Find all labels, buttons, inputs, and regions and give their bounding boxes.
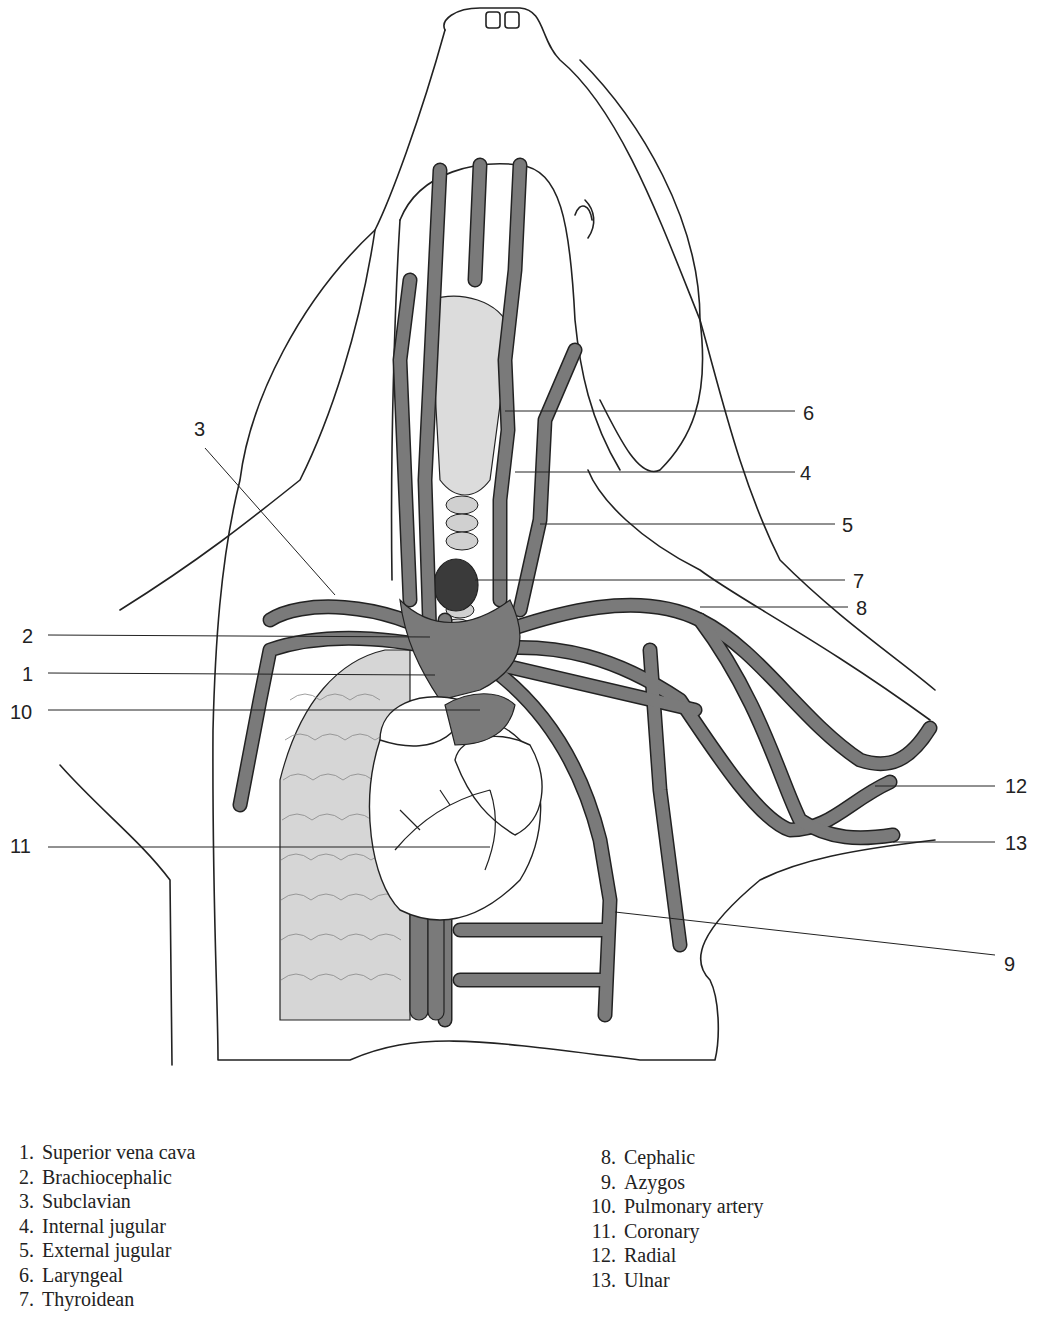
legend-item: 8.Cephalic [578, 1145, 763, 1170]
legend-item: 1.Superior vena cava [10, 1140, 195, 1165]
callout-4: 4 [800, 463, 811, 483]
legend-item: 12.Radial [578, 1243, 763, 1268]
legend-item: 3.Subclavian [10, 1189, 195, 1214]
callout-8: 8 [856, 598, 867, 618]
callout-1: 1 [22, 664, 33, 684]
legend-item: 7.Thyroidean [10, 1287, 195, 1312]
callout-5: 5 [842, 515, 853, 535]
callout-6: 6 [803, 403, 814, 423]
legend-item: 13.Ulnar [578, 1268, 763, 1293]
callout-9: 9 [1004, 954, 1015, 974]
legend-item: 4.Internal jugular [10, 1214, 195, 1239]
legend-item: 10.Pulmonary artery [578, 1194, 763, 1219]
legend-item: 5.External jugular [10, 1238, 195, 1263]
callout-13: 13 [1005, 833, 1027, 853]
thyroid [434, 559, 478, 611]
callout-12: 12 [1005, 776, 1027, 796]
legend-left: 1.Superior vena cava 2.Brachiocephalic 3… [10, 1140, 195, 1312]
legend-right: 8.Cephalic 9.Azygos 10.Pulmonary artery … [578, 1145, 763, 1292]
legend-item: 6.Laryngeal [10, 1263, 195, 1288]
callout-11: 11 [10, 836, 31, 856]
anatomy-illustration [0, 0, 1041, 1110]
legend-item: 11.Coronary [578, 1219, 763, 1244]
legend-item: 9.Azygos [578, 1170, 763, 1195]
callout-10: 10 [10, 702, 32, 722]
callout-2: 2 [22, 626, 33, 646]
legend-item: 2.Brachiocephalic [10, 1165, 195, 1190]
callout-3: 3 [194, 419, 205, 439]
callout-7: 7 [853, 571, 864, 591]
